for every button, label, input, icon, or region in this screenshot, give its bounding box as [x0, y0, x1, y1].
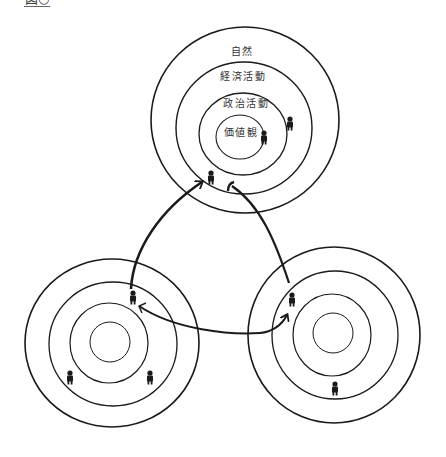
person-icon	[261, 130, 267, 144]
label-nature: 自然	[231, 43, 254, 58]
arrow-left-right-exchange	[139, 306, 287, 333]
community-right	[248, 247, 420, 423]
label-values: 価値観	[224, 124, 259, 139]
arrow-right-to-top	[232, 186, 289, 283]
person-icon	[287, 116, 293, 130]
label-political-activity: 政治活動	[223, 95, 269, 110]
ring-economy	[49, 282, 177, 406]
person-icon	[289, 292, 295, 306]
ring-nature	[25, 259, 199, 427]
ring-values	[313, 313, 353, 353]
label-economic-activity: 経済活動	[220, 68, 266, 83]
arrow-left-to-top	[131, 182, 202, 289]
ring-politics	[70, 303, 148, 383]
person-icon	[332, 381, 338, 395]
community-left	[25, 259, 199, 427]
ring-economy	[272, 271, 398, 399]
ring-values	[90, 322, 130, 362]
person-icon	[208, 170, 214, 184]
person-icon	[147, 370, 153, 384]
person-icon	[130, 290, 136, 304]
ring-nature	[248, 247, 420, 423]
ring-politics	[293, 294, 371, 376]
person-icon	[67, 370, 73, 384]
